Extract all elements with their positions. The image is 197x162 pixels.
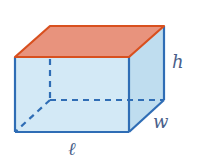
width-label: w [153, 111, 169, 132]
rectangular-prism-diagram: h w ℓ [0, 0, 197, 162]
front-face [15, 57, 129, 132]
height-label: h [172, 51, 184, 72]
length-label: ℓ [68, 138, 76, 159]
